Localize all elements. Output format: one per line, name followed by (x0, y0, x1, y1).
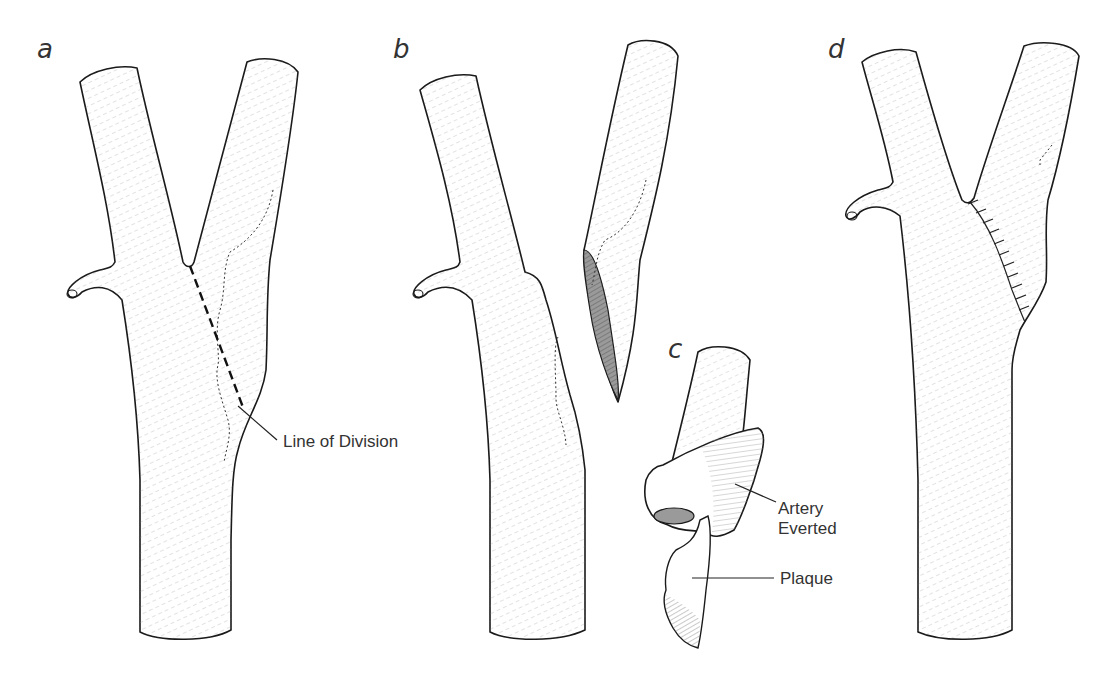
panel-d (846, 43, 1079, 639)
panel-a (67, 59, 298, 639)
label-artery-everted-line2: Everted (778, 519, 837, 539)
panel-letter-b: b (393, 36, 410, 62)
panel-c (645, 347, 776, 648)
panel-b (413, 41, 678, 640)
cuff-lumen (654, 508, 694, 524)
panel-letter-c: c (668, 336, 682, 362)
label-artery-everted-line1: Artery (778, 499, 823, 519)
panel-letter-a: a (37, 36, 53, 62)
label-line-of-division: Line of Division (283, 432, 398, 452)
panel-letter-d: d (828, 36, 845, 62)
figure-canvas (0, 0, 1113, 679)
label-plaque: Plaque (780, 569, 833, 589)
